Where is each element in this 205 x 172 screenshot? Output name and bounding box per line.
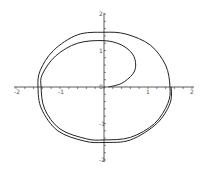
x-tick-label: -2 [14, 88, 20, 95]
y-tick-label: 2 [99, 10, 103, 17]
x-tick-label: 2 [190, 88, 194, 95]
y-tick-label: -1 [99, 120, 105, 127]
y-tick-label: 0 [99, 83, 103, 90]
x-tick-label: -1 [58, 88, 64, 95]
y-tick-label: -2 [99, 156, 105, 163]
parametric-plot: -2-112 -2-1012 [0, 0, 205, 172]
y-tick-label: 1 [99, 47, 103, 54]
x-tick-label: 1 [146, 88, 150, 95]
